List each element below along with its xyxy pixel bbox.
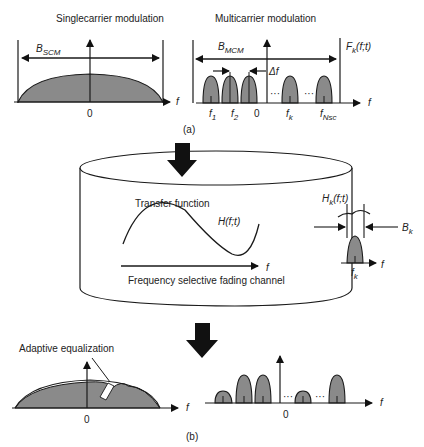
svg-text:f: f bbox=[381, 259, 385, 270]
h-label: H(f;t) bbox=[218, 216, 240, 227]
equalized-multi-carrier: ··· ··· f 0 bbox=[205, 356, 384, 420]
b-mcm-label: BMCM bbox=[218, 41, 244, 55]
svg-text:0: 0 bbox=[254, 108, 260, 119]
bk-label: Bk bbox=[402, 222, 414, 236]
single-carrier-panel: Singlecarrier modulation BSCM f 0 bbox=[14, 13, 180, 119]
f1-label: f1 bbox=[209, 108, 216, 122]
svg-text:0: 0 bbox=[84, 414, 90, 425]
adaptive-equalization-label: Adaptive equalization bbox=[19, 343, 114, 354]
fk-label: fk bbox=[286, 108, 294, 122]
delta-f-label: Δf bbox=[268, 66, 280, 77]
equalized-single-carrier: Adaptive equalization f 0 bbox=[12, 343, 190, 425]
multi-carrier-title: Multicarrier modulation bbox=[215, 13, 316, 24]
ofdm-diagram: Singlecarrier modulation BSCM f 0 Multic… bbox=[0, 0, 424, 447]
f2-label: f2 bbox=[231, 108, 239, 122]
single-carrier-title: Singlecarrier modulation bbox=[56, 13, 164, 24]
b-scm-label: BSCM bbox=[36, 43, 61, 57]
svg-text:0: 0 bbox=[87, 108, 93, 119]
svg-text:···: ··· bbox=[315, 391, 325, 402]
caption-b: (b) bbox=[186, 431, 198, 442]
down-arrow-icon bbox=[186, 323, 218, 358]
svg-text:f: f bbox=[368, 97, 372, 108]
svg-text:···: ··· bbox=[270, 88, 280, 99]
caption-a: (a) bbox=[183, 124, 195, 135]
svg-text:···: ··· bbox=[304, 88, 314, 99]
svg-text:f: f bbox=[380, 397, 384, 408]
fnsc-label: fNsc bbox=[320, 108, 337, 122]
multi-carrier-panel: Multicarrier modulation BMCM Fk(f;t) Δf … bbox=[193, 13, 372, 122]
channel-label: Frequency selective fading channel bbox=[128, 275, 285, 286]
svg-text:···: ··· bbox=[283, 391, 293, 402]
svg-text:0: 0 bbox=[283, 409, 289, 420]
svg-text:f: f bbox=[176, 96, 180, 107]
fk-function-label: Fk(f;t) bbox=[346, 41, 371, 55]
svg-text:f: f bbox=[186, 402, 190, 413]
